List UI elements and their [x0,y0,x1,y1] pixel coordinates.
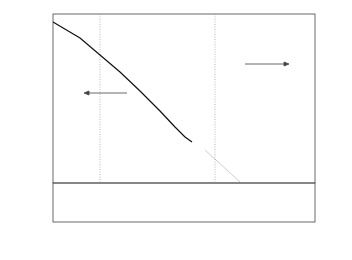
residual-plot-frame [53,183,315,222]
left-axis-arrow [84,91,127,95]
fit-extension-line [205,150,240,182]
scar-decay-chart [0,0,352,260]
right-axis-arrow [245,62,289,66]
main-plot-frame [53,14,315,183]
measured-signal-line [53,22,192,142]
